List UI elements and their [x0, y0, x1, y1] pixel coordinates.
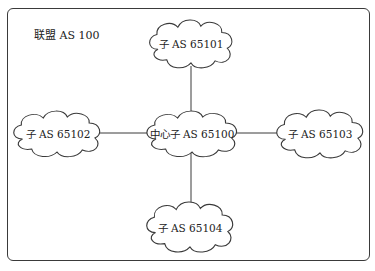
node-label-top: 子 AS 65101 — [159, 36, 224, 51]
confederation-label: 联盟 AS 100 — [34, 26, 99, 42]
confederation-diagram: 联盟 AS 100 子 AS 65101 子 AS 65102 中心子 AS 6… — [0, 0, 375, 271]
node-label-right: 子 AS 65103 — [288, 126, 353, 141]
node-label-left: 子 AS 65102 — [26, 126, 91, 141]
node-label-center: 中心子 AS 65100 — [150, 126, 235, 141]
node-label-bottom: 子 AS 65104 — [158, 220, 223, 235]
